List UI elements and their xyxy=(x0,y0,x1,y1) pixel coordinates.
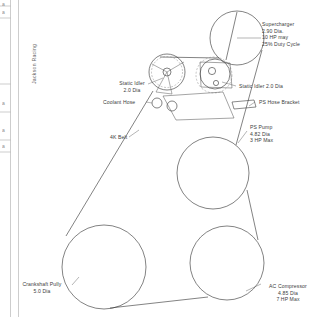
label-supercharger: Supercharger 2.90 Dia. 10 HP may 25% Dut… xyxy=(262,21,300,47)
title-block-vertical-label: Jackson Racing xyxy=(31,44,37,84)
coolant-hose-circle xyxy=(152,98,162,108)
pulley-ac-compressor xyxy=(190,226,264,300)
pulley-static-idler-left xyxy=(149,54,185,94)
label-4k-belt: 4K Belt xyxy=(110,134,127,141)
edge-fragment-1: a xyxy=(2,1,10,7)
pulley-crankshaft xyxy=(62,225,146,309)
title-block-frame xyxy=(0,0,19,317)
label-ps-hose-bracket: PS Hose Bracket xyxy=(259,99,300,106)
label-static-idler-left: Static Idler 2.0 Dia xyxy=(115,80,149,93)
label-crankshaft-pulley: Crankshaft Pully 5.0 Dia xyxy=(13,281,71,294)
belt-routing-diagram-page: Jackson Racing Supercharger 2.90 Dia. 10… xyxy=(0,0,315,317)
pulley-static-idler-right xyxy=(196,57,232,93)
mounting-plate xyxy=(163,92,234,120)
label-ps-pump: PS Pump 4.82 Dia 3 HP Max xyxy=(250,124,273,144)
edge-fragment-5: a xyxy=(2,143,10,149)
edge-fragment-4: a xyxy=(2,127,10,133)
ps-hose-bracket-shape xyxy=(232,100,256,109)
pulley-ps-pump xyxy=(177,137,249,209)
label-static-idler-right: Static Idler 2.0 Dia xyxy=(239,83,283,90)
belt-routing-drawing xyxy=(0,0,315,317)
edge-fragment-3: a xyxy=(2,100,10,106)
belt-path xyxy=(66,12,262,308)
label-coolant-hose: Coolant Hose xyxy=(103,99,135,106)
edge-fragment-2: a xyxy=(2,9,10,15)
label-ac-compressor: AC Compressor 4.85 Dia 7 HP Max xyxy=(263,283,313,303)
